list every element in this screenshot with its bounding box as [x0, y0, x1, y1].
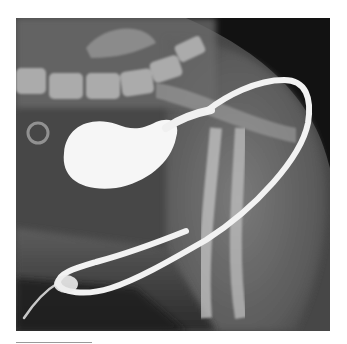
caption-rule	[16, 342, 92, 343]
radiograph-image	[16, 18, 330, 331]
radiograph-figure	[16, 18, 330, 331]
